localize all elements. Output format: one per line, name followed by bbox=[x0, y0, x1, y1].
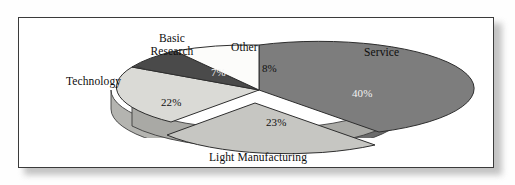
slice-percent-technology: 22% bbox=[161, 96, 181, 108]
slice-label-basic-research: Basic Research bbox=[137, 32, 207, 57]
slice-percent-service: 40% bbox=[352, 87, 372, 99]
slice-label-service: Service bbox=[364, 46, 399, 59]
slice-percent-basic-research: 7% bbox=[211, 66, 226, 78]
slice-label-basic-research-line1: Basic bbox=[137, 32, 207, 45]
pie-chart: Basic Research Other Service Technology … bbox=[19, 18, 493, 167]
slice-percent-other: 8% bbox=[262, 62, 277, 74]
slice-label-light-manufacturing: Light Manufacturing bbox=[209, 151, 307, 164]
figure-root: Basic Research Other Service Technology … bbox=[0, 0, 515, 185]
slice-label-technology: Technology bbox=[66, 75, 121, 88]
slice-label-basic-research-line2: Research bbox=[137, 45, 207, 58]
chart-frame: Basic Research Other Service Technology … bbox=[18, 17, 494, 168]
slice-label-other: Other bbox=[231, 41, 258, 54]
slice-percent-light-manufacturing: 23% bbox=[266, 116, 286, 128]
